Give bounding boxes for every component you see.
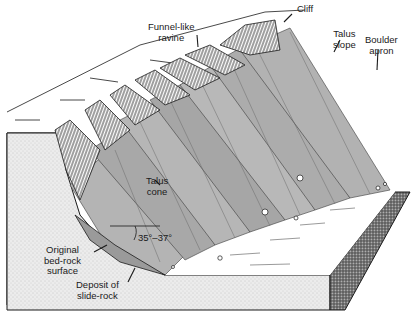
- label-boulder-apron: Boulder apron: [365, 35, 398, 56]
- talus-block-diagram: Cliff Funnel-like ravine Talus slope Bou…: [0, 0, 413, 319]
- label-angle: 35°–37°: [138, 233, 172, 244]
- label-talus-cone: Talus cone: [146, 176, 168, 197]
- label-bedrock-surface: Original bed-rock surface: [44, 245, 81, 277]
- label-cliff: Cliff: [297, 4, 313, 15]
- label-funnel-ravine: Funnel-like ravine: [148, 22, 194, 43]
- label-talus-slope: Talus slope: [333, 29, 356, 50]
- label-slide-rock: Deposit of slide-rock: [76, 280, 119, 301]
